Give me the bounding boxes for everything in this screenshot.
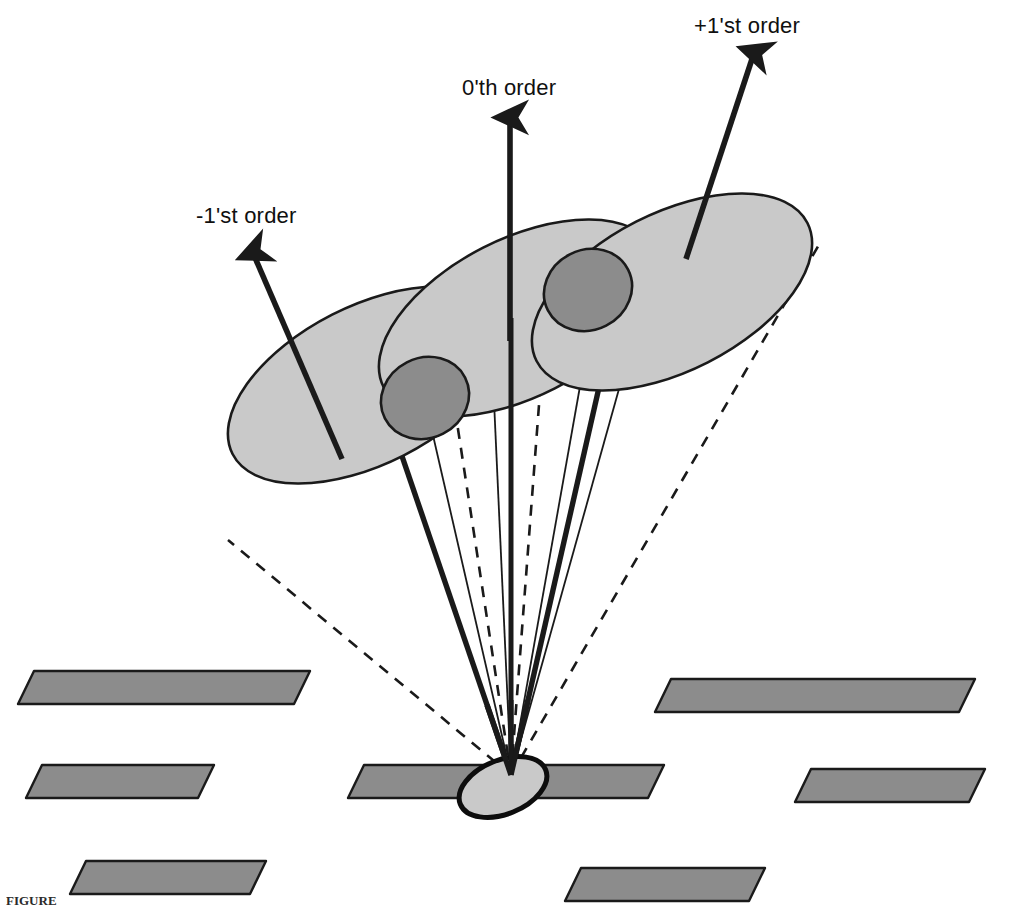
label-zeroth-order: 0'th order <box>462 75 556 101</box>
grating-bar <box>565 868 765 901</box>
diffraction-diagram-canvas <box>0 0 1016 909</box>
diffraction-grating-figure: -1'st order 0'th order +1'st order FIGUR… <box>0 0 1016 909</box>
label-minus-first-order: -1'st order <box>196 203 297 229</box>
grating-bar <box>655 679 975 712</box>
grating-bar <box>26 765 214 798</box>
grating-bar <box>70 861 266 894</box>
grating-bar <box>795 769 985 802</box>
grating-bar <box>18 671 310 704</box>
figure-caption: FIGURE <box>6 893 57 909</box>
label-plus-first-order: +1'st order <box>694 13 800 39</box>
